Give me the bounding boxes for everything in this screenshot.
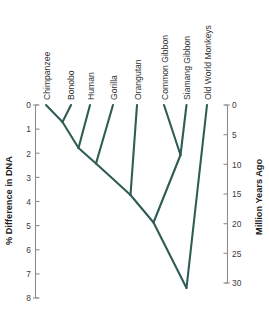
tip-label-orangutan: Orangutan <box>133 59 143 100</box>
left-axis-tick-label-2: 2 <box>26 149 31 159</box>
left-axis-tick-label-8: 8 <box>26 293 31 303</box>
branch-hominoid-clade <box>154 223 187 289</box>
branch-siamang-gibbon <box>181 105 187 155</box>
branch-chimpanzee <box>46 105 63 122</box>
branch-great-apes-clade <box>131 195 154 223</box>
right-axis-tick-label-15: 15 <box>232 189 242 199</box>
branch-orangutan <box>131 105 138 195</box>
left-axis: 0 1 2 3 4 5 6 7 8 % Difference in DNA <box>4 100 40 303</box>
left-axis-tick-label-3: 3 <box>26 173 31 183</box>
branch-gibbon-clade <box>154 155 181 223</box>
branch-bonobo <box>63 105 72 122</box>
left-axis-tick-label-0: 0 <box>26 100 31 110</box>
right-axis-title: Million Years Ago <box>254 159 264 235</box>
branch-common-gibbon <box>164 105 181 155</box>
tip-label-human: Human <box>86 72 96 100</box>
left-axis-tick-label-6: 6 <box>26 245 31 255</box>
left-axis-tick-label-4: 4 <box>26 197 31 207</box>
phylogenetic-tree-figure: Chimpanzee Bonobo Human Gorilla Oranguta… <box>0 0 269 311</box>
tip-label-old-world-monkeys: Old World Monkeys <box>203 25 213 100</box>
tip-labels: Chimpanzee Bonobo Human Gorilla Oranguta… <box>42 25 213 100</box>
branch-pan-clade <box>63 122 79 148</box>
branch-old-world-monkeys <box>187 105 208 288</box>
branch-african-apes-clade <box>96 164 131 196</box>
left-axis-tick-label-7: 7 <box>26 269 31 279</box>
tree-branches <box>46 105 207 288</box>
left-axis-tick-label-1: 1 <box>26 124 31 134</box>
branch-pan-homo-clade <box>79 148 97 164</box>
tip-label-chimpanzee: Chimpanzee <box>42 52 52 100</box>
branch-human <box>79 105 91 148</box>
branch-gorilla <box>96 105 113 164</box>
left-axis-title: % Difference in DNA <box>4 156 14 245</box>
right-axis-tick-label-30: 30 <box>232 278 242 288</box>
right-axis-tick-label-0: 0 <box>232 100 237 110</box>
right-axis-tick-label-25: 25 <box>232 249 242 259</box>
right-axis-tick-label-5: 5 <box>232 130 237 140</box>
tip-label-common-gibbon: Common Gibbon <box>160 35 170 100</box>
right-axis-tick-label-20: 20 <box>232 219 242 229</box>
tip-label-gorilla: Gorilla <box>109 75 119 100</box>
left-axis-tick-label-5: 5 <box>26 221 31 231</box>
tip-label-siamang-gibbon: Siamang Gibbon <box>182 36 192 100</box>
tip-label-bonobo: Bonobo <box>66 70 76 100</box>
right-axis: 0 5 10 15 20 25 30 Million Years Ago <box>224 100 265 288</box>
right-axis-tick-label-10: 10 <box>232 160 242 170</box>
